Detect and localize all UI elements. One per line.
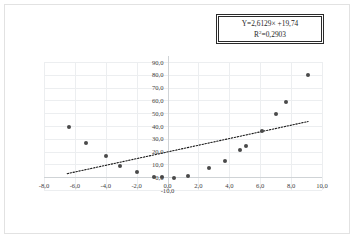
scatter-point [67, 125, 71, 129]
y-axis-tick-label: 90,0 [130, 59, 164, 66]
y-axis-tick-label: 50,0 [130, 110, 164, 117]
scatter-point [172, 176, 176, 180]
y-axis-tick-label: 20,0 [130, 148, 164, 155]
x-axis-tick-label: 10,0 [307, 182, 337, 189]
scatter-point [223, 159, 227, 163]
gridline-horizontal [44, 126, 322, 127]
x-axis-tick-label: -8,0 [29, 182, 59, 189]
gridline-horizontal [44, 62, 322, 63]
gridline-vertical [106, 62, 107, 190]
y-axis-tick-label: 10,0 [130, 161, 164, 168]
chart-canvas: Y=2,6129× +19,74 R2=0,2903 90,080,070,06… [0, 0, 354, 238]
y-axis-tick-label: 80,0 [130, 71, 164, 78]
y-axis-tick-label: 70,0 [130, 84, 164, 91]
gridline-vertical [229, 62, 230, 190]
y-axis-line [168, 56, 169, 190]
r-squared-text: R2=0,2903 [222, 28, 318, 39]
x-axis-line [44, 177, 322, 178]
scatter-point [260, 129, 264, 133]
gridline-vertical [322, 62, 323, 190]
trendline-equation-box: Y=2,6129× +19,74 R2=0,2903 [218, 16, 322, 42]
gridline-vertical [44, 62, 45, 190]
scatter-point [238, 148, 242, 152]
x-axis-tick-label: -2,0 [122, 182, 152, 189]
scatter-point [118, 164, 122, 168]
y-axis-tick-label: 40,0 [130, 123, 164, 130]
x-axis-tick-label: 4,0 [214, 182, 244, 189]
scatter-point [306, 73, 310, 77]
x-axis-tick-label: 6,0 [245, 182, 275, 189]
x-axis-tick-label: 0,0 [153, 182, 183, 189]
scatter-point [207, 166, 211, 170]
gridline-horizontal [44, 75, 322, 76]
x-axis-tick-label: -6,0 [60, 182, 90, 189]
gridline-horizontal [44, 100, 322, 101]
gridline-horizontal [44, 152, 322, 153]
gridline-vertical [75, 62, 76, 190]
scatter-point [84, 141, 88, 145]
trendline-equation-text: Y=2,6129× +19,74 [222, 19, 318, 28]
scatter-point [186, 174, 190, 178]
scatter-point [244, 144, 248, 148]
y-axis-tick-label: 60,0 [130, 97, 164, 104]
x-axis-tick-label: 2,0 [183, 182, 213, 189]
gridline-horizontal [44, 88, 322, 89]
r-squared-value: =0,2903 [261, 30, 286, 39]
gridline-horizontal [44, 139, 322, 140]
x-axis-tick-label: -4,0 [91, 182, 121, 189]
gridline-vertical [291, 62, 292, 190]
x-axis-tick-label: 8,0 [276, 182, 306, 189]
gridline-vertical [198, 62, 199, 190]
y-axis-tick-label: 30,0 [130, 135, 164, 142]
y-axis-tick-label: 0,0 [130, 174, 164, 181]
gridline-vertical [260, 62, 261, 190]
plot-area [44, 62, 322, 190]
gridline-horizontal [44, 164, 322, 165]
scatter-point [104, 154, 108, 158]
gridline-horizontal [44, 113, 322, 114]
